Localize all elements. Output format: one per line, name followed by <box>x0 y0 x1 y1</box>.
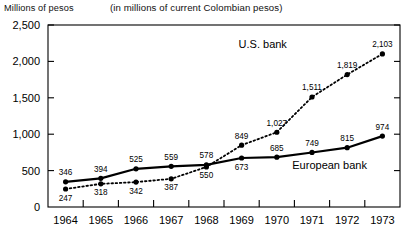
series-annotation: European bank <box>292 159 367 171</box>
data-point <box>274 130 279 135</box>
x-tick-label: 1970 <box>265 214 289 226</box>
data-point-label: 974 <box>376 123 390 132</box>
data-point <box>98 181 103 186</box>
data-point-label: 387 <box>164 183 178 192</box>
data-point <box>380 51 385 56</box>
y-tick-label: 2,500 <box>12 19 40 31</box>
x-tick-label: 1968 <box>194 214 218 226</box>
x-tick-label: 1969 <box>229 214 253 226</box>
data-point-label: 815 <box>340 134 354 143</box>
data-point <box>133 166 138 171</box>
data-point <box>274 155 279 160</box>
data-point <box>133 180 138 185</box>
data-point-label: 2,103 <box>372 40 393 49</box>
data-value-labels: 3463945255595786736857498159742473183423… <box>59 40 393 202</box>
data-point-label: 849 <box>235 132 249 141</box>
data-point-label: 685 <box>270 144 284 153</box>
x-tick-label: 1971 <box>300 214 324 226</box>
x-tick-label: 1972 <box>335 214 359 226</box>
data-point <box>63 179 68 184</box>
y-tick-label: 1,000 <box>12 128 40 140</box>
x-axis-ticks: 1964196519661967196819691970197119721973 <box>53 200 394 226</box>
data-point <box>239 143 244 148</box>
data-point-label: 749 <box>305 139 319 148</box>
y-tick-label: 1,500 <box>12 92 40 104</box>
data-point-label: 1,511 <box>302 83 322 92</box>
data-point <box>169 164 174 169</box>
series-annotation: U.S. bank <box>239 38 288 50</box>
data-point <box>345 72 350 77</box>
y-tick-label: 500 <box>22 165 40 177</box>
data-point-label: 578 <box>200 151 214 160</box>
data-point <box>63 186 68 191</box>
data-point-label: 525 <box>129 155 143 164</box>
data-point-label: 318 <box>94 188 108 197</box>
data-point-label: 550 <box>200 171 214 180</box>
data-point <box>239 155 244 160</box>
data-point-label: 673 <box>235 163 249 172</box>
data-point <box>309 150 314 155</box>
data-point-label: 1,027 <box>267 119 288 128</box>
data-point-label: 247 <box>59 194 73 203</box>
data-point <box>309 94 314 99</box>
x-tick-label: 1966 <box>124 214 148 226</box>
series-annotations: U.S. bankEuropean bank <box>239 38 368 171</box>
line-chart-plot: 05001,0001,5002,0002,500 196419651966196… <box>0 0 416 235</box>
x-tick-label: 1973 <box>370 214 394 226</box>
x-tick-label: 1967 <box>159 214 183 226</box>
data-point-label: 559 <box>164 153 178 162</box>
x-tick-label: 1965 <box>89 214 113 226</box>
y-tick-label: 0 <box>34 201 40 213</box>
x-tick-label: 1964 <box>53 214 77 226</box>
data-point-label: 1,819 <box>337 61 358 70</box>
data-point <box>169 176 174 181</box>
data-point <box>345 145 350 150</box>
data-point <box>204 164 209 169</box>
y-tick-label: 2,000 <box>12 55 40 67</box>
data-point-label: 342 <box>129 187 143 196</box>
data-point <box>98 176 103 181</box>
y-axis-ticks: 05001,0001,5002,0002,500 <box>12 19 400 213</box>
chart-container: Millions of pesos (in millions of curren… <box>0 0 416 235</box>
data-point-label: 394 <box>94 165 108 174</box>
data-point <box>380 133 385 138</box>
data-point-label: 346 <box>59 168 73 177</box>
